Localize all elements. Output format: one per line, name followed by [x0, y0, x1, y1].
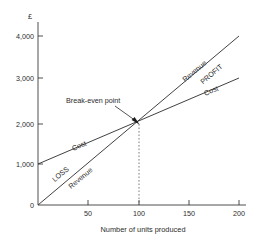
break-even-chart: 4,000 3,000 2,000 1,000 0 50 100 150 200… [0, 0, 260, 242]
x-tick-label-100: 100 [133, 209, 145, 218]
series-group [38, 36, 239, 205]
x-tick-label-50: 50 [84, 209, 92, 218]
y-axis-currency-symbol: £ [28, 12, 32, 21]
x-axis-title: Number of units produced [100, 225, 185, 234]
y-tick-label-0: 0 [30, 201, 34, 210]
cost-label-left: Cost [70, 139, 87, 153]
cost-label-right: Cost [202, 84, 219, 98]
y-tick-label-3000: 3,000 [16, 74, 34, 83]
break-even-annotation: Break-even point [66, 96, 140, 125]
break-even-point-label: Break-even point [66, 96, 120, 105]
y-tick-marks [38, 36, 43, 164]
loss-region-label: LOSS [50, 164, 71, 183]
y-tick-label-2000: 2,000 [16, 120, 34, 129]
revenue-line [38, 36, 239, 205]
x-tick-label-200: 200 [233, 209, 245, 218]
x-tick-labels: 50 100 150 200 [84, 209, 245, 218]
y-tick-labels: 4,000 3,000 2,000 1,000 0 [16, 32, 34, 210]
y-tick-label-1000: 1,000 [16, 160, 34, 169]
x-tick-label-150: 150 [183, 209, 195, 218]
x-tick-marks [88, 200, 239, 205]
axes-group [38, 22, 246, 205]
y-tick-label-4000: 4,000 [16, 32, 34, 41]
chart-canvas: 4,000 3,000 2,000 1,000 0 50 100 150 200… [0, 0, 260, 242]
